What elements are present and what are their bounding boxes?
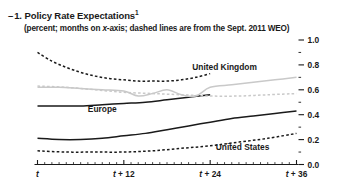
x-tick-label: t + 36: [286, 169, 308, 179]
y-tick-label: 0.8: [308, 60, 320, 70]
series-annotation-0: United Kingdom: [192, 62, 257, 72]
tick-label-layer: tt + 12t + 24t + 360.00.20.40.60.81.0: [36, 35, 319, 178]
y-tick-label: 0.0: [308, 160, 320, 170]
y-tick-label: 1.0: [308, 35, 320, 45]
series-annotation-1: Europe: [88, 104, 117, 114]
annotation-layer: United KingdomEuropeUnited States: [88, 62, 270, 152]
series-line-1: [38, 95, 211, 106]
series-line-4: [38, 111, 297, 140]
y-tick-label: 0.2: [308, 135, 320, 145]
x-tick-label: t: [36, 169, 40, 179]
y-tick-label: 0.6: [308, 85, 320, 95]
series-line-3: [38, 86, 297, 96]
x-tick-label: t + 12: [113, 169, 135, 179]
figure-panel: –1. Policy Rate Expectations1 (percent; …: [0, 0, 338, 189]
x-tick-label: t + 24: [199, 169, 221, 179]
series-layer: [38, 52, 297, 152]
series-annotation-2: United States: [216, 142, 270, 152]
y-tick-label: 0.4: [308, 110, 320, 120]
series-line-0: [38, 52, 211, 81]
chart-plot-area: tt + 12t + 24t + 360.00.20.40.60.81.0 Un…: [0, 0, 338, 189]
